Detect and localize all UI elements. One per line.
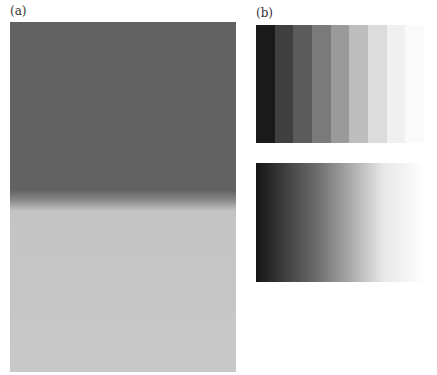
gray-stripe-2 — [293, 25, 312, 143]
gray-stripe-1 — [275, 25, 294, 143]
gray-stripe-3 — [312, 25, 331, 143]
gray-stripe-7 — [387, 25, 406, 143]
panel-a-label: (a) — [10, 4, 27, 18]
gray-stripe-0 — [256, 25, 275, 143]
panel-b-label: (b) — [256, 6, 273, 20]
gray-stripe-5 — [349, 25, 368, 143]
gray-gradient-bar — [256, 163, 426, 282]
gray-step-stripes — [256, 25, 424, 143]
gray-stripe-6 — [368, 25, 387, 143]
gray-stripe-4 — [331, 25, 350, 143]
gray-stripe-8 — [405, 25, 424, 143]
two-tone-gray-panel — [10, 22, 236, 372]
